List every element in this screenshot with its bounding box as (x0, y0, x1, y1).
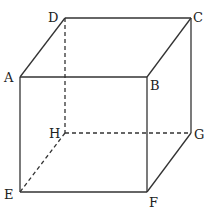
vertex-label-d: D (48, 10, 58, 25)
vertex-label-h: H (49, 126, 60, 141)
vertex-label-e: E (4, 187, 14, 202)
vertex-label-c: C (193, 10, 203, 25)
edge-da (20, 18, 65, 77)
vertex-label-a: A (3, 70, 14, 85)
vertex-label-b: B (150, 78, 160, 93)
edge-fg (147, 133, 191, 192)
vertex-label-g: G (194, 127, 204, 142)
hidden-edge-he (20, 133, 65, 192)
edge-bc (147, 18, 191, 77)
vertex-label-f: F (149, 195, 158, 210)
cube-diagram: D C A B H G E F (0, 0, 211, 213)
